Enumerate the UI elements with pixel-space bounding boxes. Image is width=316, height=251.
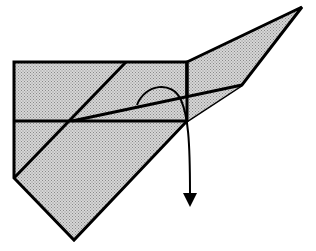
origami-diagram-svg <box>0 0 316 251</box>
origami-diagram: Shaded origami model with a flap to be f… <box>0 0 316 251</box>
arrow-head-icon <box>183 193 197 207</box>
